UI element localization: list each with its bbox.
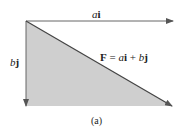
diagram-canvas: ai bj F = ai + bj (a) xyxy=(0,0,182,131)
label-bj: bj xyxy=(10,56,19,68)
figure-caption: (a) xyxy=(91,115,102,127)
label-resultant-equation: F = ai + bj xyxy=(100,51,148,63)
label-ai: ai xyxy=(92,8,101,20)
vector-diagram: ai bj F = ai + bj (a) xyxy=(0,0,182,131)
